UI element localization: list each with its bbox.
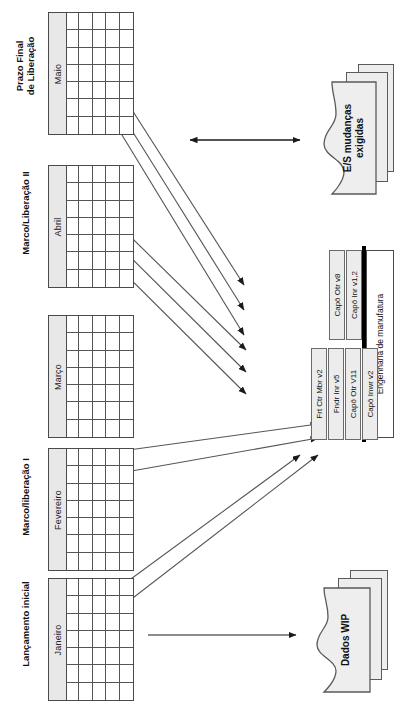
calendar-janeiro-header: Lançamento inicial (20, 560, 31, 688)
calendar-marco-month-label: Março (53, 363, 63, 389)
doc-wip-label: Dados WIP (340, 614, 352, 666)
calendar-maio-grid (66, 13, 133, 134)
calendar-abril-month-label: Abril (53, 217, 63, 236)
calendar-maio-month-label: Maio (53, 63, 63, 83)
part-frt-ctr-mbr-v2-label: Frt Ctr Mbr v2 (315, 369, 324, 418)
calendar-abril-header: Marco/Liberação II (20, 154, 31, 272)
doc-es-label-line1: E/S mudanças (342, 104, 353, 172)
part-frt-ctr-mbr-v2[interactable]: Frt Ctr Mbr v2 (311, 348, 327, 440)
calendar-janeiro-grid (66, 579, 133, 700)
doc-es-label-line2: exigidas (354, 118, 365, 158)
calendar-maio-header-line2: de Liberação (25, 37, 36, 96)
doc-es-label: E/S mudanças exigidas (342, 104, 366, 172)
part-fndr-inr-v5-label: Fndr Inr v5 (332, 375, 341, 414)
calendar-abril-header-line1: Marco/Liberação II (20, 171, 31, 254)
part-capo-otr-v8-label: Capô Otr v8 (333, 273, 342, 316)
part-capo-otr-v11-label: Capô Otr V11 (349, 370, 358, 418)
calendar-maio-header: Prazo Final de Liberação (14, 7, 36, 125)
part-capo-otr-v11[interactable]: Capô Otr V11 (345, 348, 361, 440)
calendar-marco-grid (66, 316, 133, 437)
doc-dados-wip[interactable]: Dados WIP (300, 566, 400, 702)
calendar-janeiro[interactable]: Janeiro (48, 578, 134, 701)
doc-wip-label-line1: Dados WIP (340, 614, 351, 666)
calendar-fevereiro-month-band: Fevereiro (49, 449, 67, 570)
calendar-fevereiro-grid (66, 449, 133, 570)
calendar-marco[interactable]: Março (48, 315, 134, 438)
calendar-janeiro-month-label: Janeiro (53, 624, 63, 655)
calendar-marco-month-band: Março (49, 316, 67, 437)
calendar-janeiro-month-band: Janeiro (49, 579, 67, 700)
calendar-maio-month-band: Maio (49, 13, 67, 134)
calendar-maio-header-line1: Prazo Final (14, 41, 25, 92)
diagram-canvas: Maio Prazo Final de Liberação Abril Marc… (0, 0, 402, 709)
calendar-abril-month-band: Abril (49, 166, 67, 287)
part-fndr-inr-v5[interactable]: Fndr Inr v5 (328, 348, 344, 440)
calendar-abril-grid (66, 166, 133, 287)
calendar-fevereiro-header: Marco/liberação I (20, 438, 31, 556)
part-capo-inwr-v2[interactable]: Capô Inwr v2 (362, 348, 378, 440)
doc-es-mudancas[interactable]: E/S mudanças exigidas (306, 60, 398, 212)
calendar-janeiro-header-line1: Lançamento inicial (20, 581, 31, 667)
calendar-fevereiro[interactable]: Fevereiro (48, 448, 134, 571)
calendar-maio[interactable]: Maio (48, 12, 134, 135)
part-capo-otr-v8[interactable]: Capô Otr v8 (329, 250, 345, 340)
calendar-fevereiro-header-line1: Marco/liberação I (20, 458, 31, 536)
part-capo-inwr-v2-label: Capô Inwr v2 (366, 370, 375, 417)
part-capo-inr-v12[interactable]: Capô Inr v1,2 (346, 250, 362, 340)
calendar-abril[interactable]: Abril (48, 165, 134, 288)
calendar-fevereiro-month-label: Fevereiro (53, 490, 63, 530)
part-capo-inr-v12-label: Capô Inr v1,2 (350, 271, 359, 319)
